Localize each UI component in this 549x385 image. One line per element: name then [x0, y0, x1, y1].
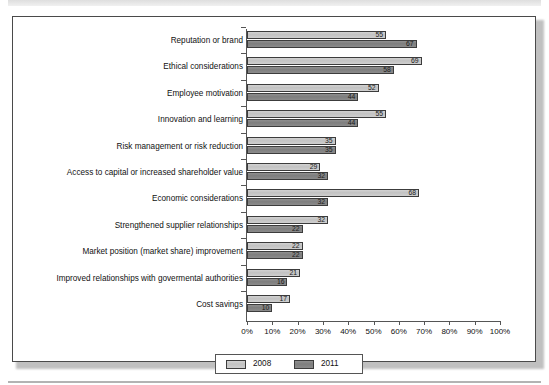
legend-label-2011: 2011: [321, 359, 339, 369]
bar-value-label: 22: [278, 242, 300, 250]
category-tick: [241, 53, 246, 54]
category-tick: [241, 159, 246, 160]
category-tick: [241, 27, 246, 28]
bar-value-label: 68: [394, 189, 416, 197]
category-label: Market position (market share) improveme…: [82, 247, 243, 257]
category-tick: [241, 185, 246, 186]
bar-value-label: 17: [265, 295, 287, 303]
bar-value-label: 44: [333, 119, 355, 127]
legend-swatch-2011: [294, 360, 314, 369]
category-label: Innovation and learning: [158, 115, 243, 125]
legend-item-2008: 2008: [226, 359, 271, 369]
legend-swatch-2008: [226, 360, 246, 369]
value-tick: [449, 321, 450, 325]
bar-value-label: 22: [278, 225, 300, 233]
bar-value-label: 35: [311, 146, 333, 154]
category-label: Cost savings: [196, 300, 243, 310]
value-tick: [424, 321, 425, 325]
bar-value-label: 29: [295, 163, 317, 171]
value-tick: [272, 321, 273, 325]
category-tick: [241, 106, 246, 107]
bar-value-label: 55: [361, 31, 383, 39]
bar-value-label: 35: [311, 137, 333, 145]
value-tick: [399, 321, 400, 325]
value-tick: [348, 321, 349, 325]
bar-value-label: 52: [354, 84, 376, 92]
category-tick: [241, 291, 246, 292]
category-label: Ethical considerations: [163, 62, 243, 72]
legend-label-2008: 2008: [253, 359, 271, 369]
value-tick: [374, 321, 375, 325]
scan-bottom-rule: [8, 381, 541, 383]
value-tick-label: 100%: [483, 327, 517, 337]
category-label: Employee motivation: [167, 89, 243, 99]
scan-top-band: [8, 0, 541, 6]
bar-value-label: 32: [303, 198, 325, 206]
category-tick: [241, 238, 246, 239]
category-label: Economic considerations: [152, 194, 243, 204]
bar-value-label: 10: [247, 304, 269, 312]
value-tick: [323, 321, 324, 325]
category-label: Access to capital or increased sharehold…: [67, 168, 243, 178]
bar-value-label: 22: [278, 251, 300, 259]
chart-legend: 2008 2011: [215, 354, 363, 374]
bar-value-label: 44: [333, 93, 355, 101]
chart-figure: Reputation or brand5567Ethical considera…: [12, 16, 536, 362]
plot-area: Reputation or brand5567Ethical considera…: [13, 17, 535, 361]
bar-value-label: 67: [392, 40, 414, 48]
category-tick: [241, 212, 246, 213]
category-label: Strengthened supplier relationships: [115, 221, 243, 231]
legend-item-2011: 2011: [294, 359, 339, 369]
value-tick: [298, 321, 299, 325]
bar-value-label: 32: [303, 216, 325, 224]
value-tick: [475, 321, 476, 325]
bar-value-label: 16: [262, 278, 284, 286]
category-tick: [241, 265, 246, 266]
category-label: Improved relationships with govermental …: [56, 274, 243, 284]
bar-value-label: 21: [275, 269, 297, 277]
value-tick: [500, 321, 501, 325]
bar-2008: [247, 57, 422, 65]
bar-value-label: 58: [369, 66, 391, 74]
bar-value-label: 32: [303, 172, 325, 180]
bar-value-label: 69: [397, 57, 419, 65]
category-tick: [241, 133, 246, 134]
category-tick: [241, 80, 246, 81]
bar-value-label: 55: [361, 110, 383, 118]
value-tick: [247, 321, 248, 325]
category-label: Risk management or risk reduction: [116, 142, 243, 152]
category-label: Reputation or brand: [171, 36, 243, 46]
